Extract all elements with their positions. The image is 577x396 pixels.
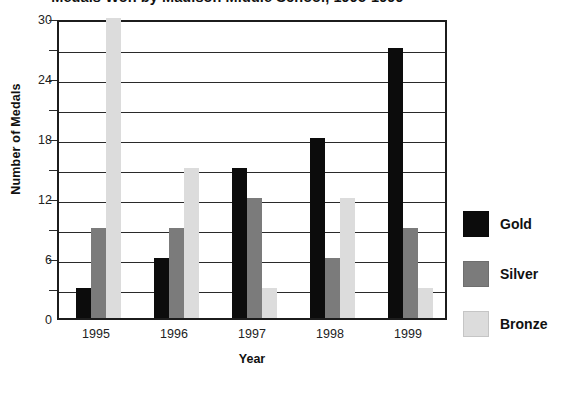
legend-swatch-bronze [463,311,489,337]
y-axis-tick-mark [49,20,57,21]
y-axis-tick-label: 0 [26,313,52,327]
bar-gold-1999 [388,48,403,318]
bar-gold-1995 [76,288,91,318]
bar-bronze-1998 [340,198,355,318]
legend-label-silver: Silver [500,266,538,282]
y-axis-tick-mark [49,50,57,51]
bar-gold-1998 [310,138,325,318]
y-axis-tick-mark [49,140,57,141]
plot-area [57,20,447,320]
x-axis-label: Year [57,352,447,366]
legend-item-silver[interactable]: Silver [463,249,575,299]
x-axis-tick-label-1998: 1998 [285,327,375,341]
chart-title: Medals Won by Madison Middle School, 199… [0,0,455,5]
y-axis-tick-mark [49,170,57,171]
y-axis-tick-mark [49,110,57,111]
bar-silver-1999 [403,228,418,318]
legend-swatch-gold [463,211,489,237]
legend-item-gold[interactable]: Gold [463,199,575,249]
x-axis-tick-label-1995: 1995 [51,327,141,341]
legend-item-bronze[interactable]: Bronze [463,299,575,349]
bar-bronze-1997 [262,288,277,318]
bar-silver-1997 [247,198,262,318]
bar-gold-1996 [154,258,169,318]
y-axis-tick-mark [49,260,57,261]
x-axis-tick-label-1997: 1997 [207,327,297,341]
y-axis-tick-mark [49,200,57,201]
legend-label-bronze: Bronze [500,316,547,332]
x-axis-tick-label-1999: 1999 [363,327,453,341]
bar-silver-1998 [325,258,340,318]
legend-label-gold: Gold [500,216,532,232]
chart-legend: GoldSilverBronze [463,199,575,349]
bar-bronze-1996 [184,168,199,318]
y-axis-tick-mark [49,290,57,291]
y-axis-tick-mark [49,230,57,231]
bar-bronze-1995 [106,18,121,318]
bar-silver-1996 [169,228,184,318]
bar-chart: Medals Won by Madison Middle School, 199… [0,0,577,396]
x-axis-tick-label-1996: 1996 [129,327,219,341]
bar-gold-1997 [232,168,247,318]
y-axis-tick-mark [49,80,57,81]
bar-bronze-1999 [418,288,433,318]
y-axis-ticks: 0612182430 [12,20,52,320]
legend-swatch-silver [463,261,489,287]
bar-silver-1995 [91,228,106,318]
